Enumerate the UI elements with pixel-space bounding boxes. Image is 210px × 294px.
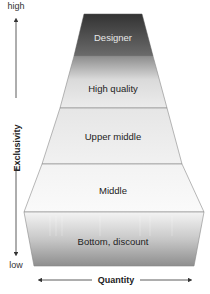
x-axis-title: Quantity (98, 275, 135, 285)
y-axis-low-label: low (9, 260, 23, 270)
label-high-quality: High quality (88, 83, 138, 94)
y-axis-title: Exclusivity (12, 124, 22, 171)
label-bottom-discount: Bottom, discount (78, 236, 149, 247)
y-axis-high-label: high (7, 1, 24, 11)
label-middle: Middle (99, 185, 127, 196)
y-axis: high Exclusivity low (7, 1, 24, 270)
layer-high-quality (60, 56, 167, 108)
x-axis: Quantity (40, 275, 190, 285)
label-upper-middle: Upper middle (85, 131, 142, 142)
label-designer: Designer (94, 32, 132, 43)
exclusivity-quantity-diagram: Designer High quality Upper middle Middl… (0, 0, 210, 294)
